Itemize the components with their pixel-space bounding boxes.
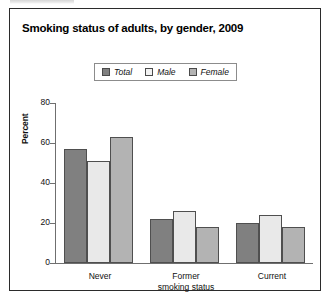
bar <box>282 227 305 263</box>
y-axis-tick <box>50 103 55 104</box>
y-axis-tick <box>50 183 55 184</box>
bar <box>150 219 173 263</box>
bar <box>236 223 259 263</box>
y-tick-label: 80 <box>28 97 50 107</box>
bar <box>64 149 87 263</box>
x-tick-label: Former <box>150 271 222 281</box>
bar <box>196 227 219 263</box>
bars-layer <box>56 103 313 263</box>
y-axis-tick <box>50 143 55 144</box>
x-tick-label: Never <box>64 271 136 281</box>
y-tick-label: 40 <box>28 177 50 187</box>
y-axis-tick-labels: 806040200 <box>28 9 50 292</box>
plot-area: Percent 806040200 NeverFormerCurrentsmok… <box>10 9 322 292</box>
y-axis-tick <box>50 223 55 224</box>
bar <box>110 137 133 263</box>
figure-frame: Smoking status of adults, by gender, 200… <box>9 8 321 291</box>
x-tick-label: Current <box>236 271 308 281</box>
y-tick-label: 60 <box>28 137 50 147</box>
cut-off-caption-fragment <box>10 0 74 4</box>
x-axis-line <box>55 263 313 264</box>
bar <box>259 215 282 263</box>
y-tick-label: 0 <box>28 257 50 267</box>
bar-group <box>64 103 136 263</box>
x-axis-title: smoking status <box>138 282 234 292</box>
bar <box>173 211 196 263</box>
bar-group <box>150 103 222 263</box>
bar <box>87 161 110 263</box>
x-axis-labels: NeverFormerCurrentsmoking status <box>56 267 313 297</box>
y-axis-tick <box>50 263 55 264</box>
bar-group <box>236 103 308 263</box>
y-tick-label: 20 <box>28 217 50 227</box>
